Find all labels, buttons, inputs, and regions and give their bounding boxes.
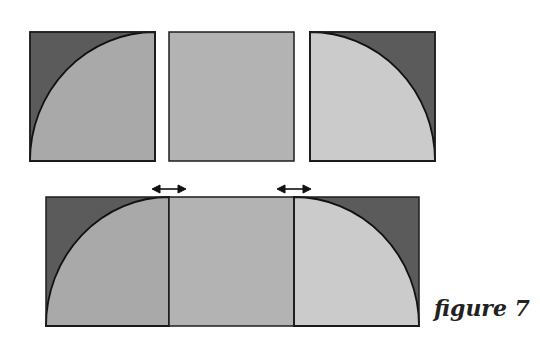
bottom-strip	[46, 197, 419, 326]
top-left-block	[30, 32, 155, 161]
top-middle-block	[169, 32, 294, 161]
double-arrow-icon	[277, 185, 311, 193]
top-right-block	[310, 32, 435, 161]
double-arrow-icon	[152, 185, 186, 193]
figure-caption: figure 7	[434, 295, 530, 321]
